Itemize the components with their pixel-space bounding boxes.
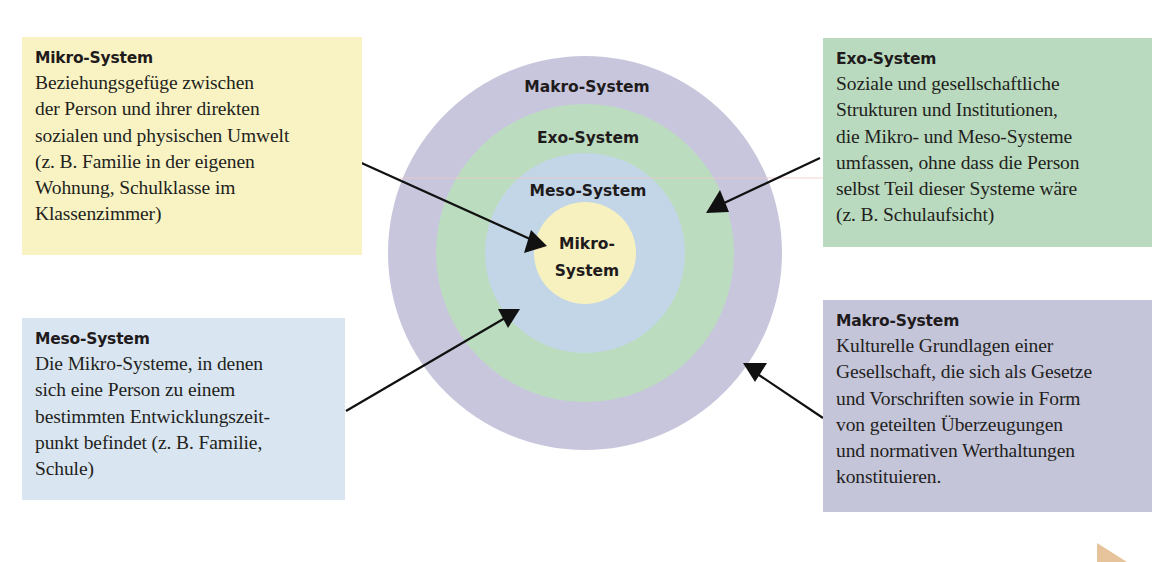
makro-system-title: Makro-System (836, 310, 1140, 332)
arrow-makro (743, 363, 823, 418)
mikro-system-text-line: sozialen und physischen Umwelt (35, 123, 350, 149)
meso-system-text-line: sich eine Person zu einem (35, 377, 333, 403)
meso-ring-label: Meso-System (530, 182, 647, 200)
exo-ring-label: Exo-System (537, 129, 639, 147)
makro-system-text-line: konstituieren. (836, 464, 1140, 490)
meso-system-text-line: punkt befindet (z. B. Familie, (35, 430, 333, 456)
mikro-system-title: Mikro-System (35, 47, 350, 69)
makro-system-text-line: Gesellschaft, die sich als Gesetze (836, 359, 1140, 385)
meso-system-title: Meso-System (35, 328, 333, 350)
exo-system-text-line: (z. B. Schulaufsicht) (836, 202, 1140, 228)
exo-system-text-line: Soziale und gesellschaftliche (836, 71, 1140, 97)
mikro-system-text-line: Klassenzimmer) (35, 201, 350, 227)
exo-system-text-line: umfassen, ohne dass die Person (836, 150, 1140, 176)
meso-system-text-line: bestimmten Entwicklungszeit- (35, 404, 333, 430)
makro-system-box: Makro-System Kulturelle Grundlagen einer… (823, 300, 1152, 512)
mikro-ring-label-line2: System (555, 262, 620, 280)
exo-system-title: Exo-System (836, 48, 1140, 70)
meso-system-box: Meso-System Die Mikro-Systeme, in denen … (22, 318, 345, 500)
mikro-system-text-line: Wohnung, Schulklasse im (35, 175, 350, 201)
page-corner-marker-icon (1097, 543, 1127, 562)
meso-system-text-line: Schule) (35, 456, 333, 482)
makro-system-text-line: Kulturelle Grundlagen einer (836, 333, 1140, 359)
mikro-system-ring (534, 202, 636, 304)
exo-system-text-line: Strukturen und Institutionen, (836, 97, 1140, 123)
mikro-system-text-line: Beziehungsgefüge zwischen (35, 70, 350, 96)
exo-system-text-line: die Mikro- und Meso-Systeme (836, 124, 1140, 150)
exo-system-text-line: selbst Teil dieser Systeme wäre (836, 176, 1140, 202)
mikro-system-text-line: der Person und ihrer direkten (35, 96, 350, 122)
makro-system-text-line: und Vorschriften sowie in Form (836, 386, 1140, 412)
mikro-system-text-line: (z. B. Familie in der eigenen (35, 149, 350, 175)
mikro-ring-label-line1: Mikro- (559, 235, 615, 253)
mikro-system-box: Mikro-System Beziehungsgefüge zwischen d… (22, 37, 362, 255)
makro-system-text-line: und normativen Werthaltungen (836, 438, 1140, 464)
meso-system-text-line: Die Mikro-Systeme, in denen (35, 351, 333, 377)
makro-system-text-line: von geteilten Überzeugungen (836, 412, 1140, 438)
makro-ring-label: Makro-System (524, 78, 649, 96)
exo-system-box: Exo-System Soziale und gesellschaftliche… (823, 38, 1152, 247)
